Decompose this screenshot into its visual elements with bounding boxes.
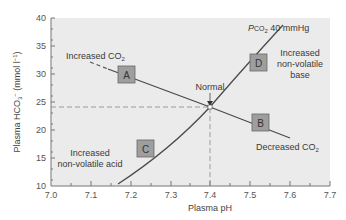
normal-label: Normal xyxy=(195,82,224,92)
x-tick-label: 7.7 xyxy=(324,190,337,200)
x-axis-title: Plasma pH xyxy=(188,203,232,213)
increased-co2-label: Increased CO2 xyxy=(66,51,126,62)
x-tick-label: 7.1 xyxy=(85,190,98,200)
x-tick-labels: 7.0 7.1 7.2 7.3 7.4 7.5 7.6 7.7 xyxy=(45,190,337,200)
marker-c: C xyxy=(137,140,154,157)
y-tick-label: 40 xyxy=(36,13,46,23)
x-tick-label: 7.4 xyxy=(204,190,217,200)
x-tick-label: 7.6 xyxy=(284,190,297,200)
x-tick-label: 7.3 xyxy=(165,190,178,200)
marker-c-label: C xyxy=(142,144,149,155)
y-tick-label: 35 xyxy=(36,41,46,51)
marker-b-label: B xyxy=(257,118,264,129)
marker-a-label: A xyxy=(123,70,130,81)
y-axis-title: Plasma HCO3− (mmol l−1) xyxy=(12,51,23,152)
x-tick-label: 7.2 xyxy=(125,190,138,200)
acid-base-chart: 40 35 30 25 20 15 10 7.0 7.1 7.2 7.3 7.4… xyxy=(0,0,346,220)
marker-b: B xyxy=(252,114,269,131)
increased-base-label-line1: Increased xyxy=(280,48,320,58)
marker-d-label: D xyxy=(255,58,262,69)
y-tick-label: 15 xyxy=(36,153,46,163)
y-tick-labels: 40 35 30 25 20 15 10 xyxy=(36,13,46,191)
normal-point xyxy=(208,105,212,109)
x-tick-label: 7.5 xyxy=(244,190,257,200)
y-tick-label: 30 xyxy=(36,69,46,79)
increased-base-label-line2: non-volatile xyxy=(277,59,323,69)
y-tick-label: 20 xyxy=(36,125,46,135)
marker-d: D xyxy=(250,54,267,71)
increased-acid-label-line2: non-volatile acid xyxy=(57,159,122,169)
marker-a: A xyxy=(118,66,135,83)
y-tick-label: 25 xyxy=(36,97,46,107)
x-tick-label: 7.0 xyxy=(45,190,58,200)
increased-base-label-line3: base xyxy=(290,70,310,80)
increased-acid-label-line1: Increased xyxy=(70,148,110,158)
decreased-co2-label: Decreased CO2 xyxy=(256,142,320,153)
